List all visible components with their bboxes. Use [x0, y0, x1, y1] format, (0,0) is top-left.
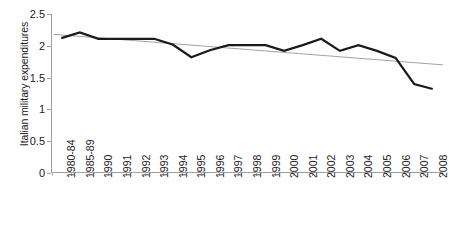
data-series-path: [61, 32, 432, 89]
